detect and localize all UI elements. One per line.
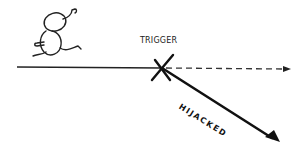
main-path-line [17, 67, 162, 68]
running-figure-icon [33, 9, 81, 56]
intended-path-dashed-line [166, 68, 283, 69]
intended-path-arrowhead-icon [283, 66, 291, 72]
diagram-canvas [0, 0, 303, 159]
hijacked-arrowhead-icon [265, 130, 280, 142]
trigger-label: TRIGGER [140, 36, 177, 45]
